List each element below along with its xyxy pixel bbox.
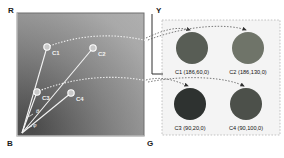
swatch-circle-c3 (174, 88, 206, 120)
swatch-circle-c2 (232, 32, 264, 64)
swatch-caption-c3: C3 (90,20,0) (174, 125, 205, 131)
swatch-caption-c1: C1 (186,60,0) (175, 69, 209, 75)
swatch-c4: C4 (90,100,0) (229, 88, 263, 131)
rgb-color-cone-figure: R B G θ φ C1 C2 (0, 0, 284, 158)
swatch-caption-c2: C2 (186,130,0) (229, 69, 266, 75)
axis-label-y: Y (156, 6, 162, 15)
swatch-c1: C1 (186,60,0) (175, 32, 209, 75)
swatch-c3: C3 (90,20,0) (174, 88, 206, 131)
angle-label-theta: θ (36, 108, 39, 114)
swatch-circle-c1 (176, 32, 208, 64)
right-panel: Y C1 (186,60,0) C2 (186,130,0) C3 (90,20… (146, 6, 280, 135)
sample-point-label-c2: C2 (98, 51, 106, 57)
axis-label-g: G (147, 139, 153, 148)
axis-label-r: R (8, 6, 14, 15)
angle-label-phi: φ (33, 122, 37, 128)
swatch-circle-c4 (230, 88, 262, 120)
sample-point-label-c1: C1 (52, 50, 60, 56)
sample-point-label-c4: C4 (76, 96, 84, 102)
legend-box (162, 20, 280, 135)
swatch-caption-c4: C4 (90,100,0) (229, 125, 263, 131)
axis-label-b: B (7, 139, 13, 148)
sample-point-label-c3: C3 (42, 95, 50, 101)
left-panel: R B G θ φ C1 C2 (7, 6, 153, 148)
chromaticity-plane-shading (17, 13, 144, 136)
